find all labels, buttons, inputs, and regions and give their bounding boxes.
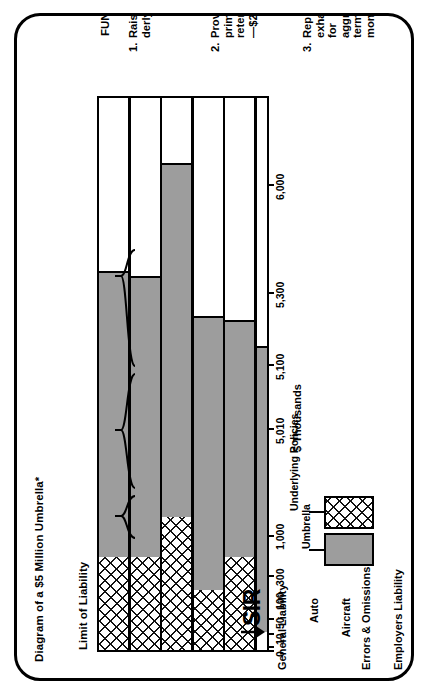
brace-function-2-icon [113,372,137,490]
function-item-1-text: Raise limits of primary (un-derlying) po… [127,16,152,38]
brace-function-3-icon [113,494,137,540]
rounded-border-frame: Diagram of a $5 Million Umbrella* Limit … [14,13,414,681]
function-item-1-number: 1. [127,43,140,52]
functions-panel: FUNCTIONS 1. Raise limits of primary (un… [17,16,411,678]
function-item-3: 3. Replace primary coverage where aggreg… [301,16,377,38]
function-item-1: 1. Raise limits of primary (un-derlying)… [127,16,152,38]
brace-function-1-icon [113,248,137,368]
function-item-3-number: 3. [301,43,314,52]
function-item-2-text: Provide broader coverage than primaries,… [209,16,259,38]
functions-heading-label: FUNCTIONS [99,16,111,36]
function-item-2: 2. Provide broader coverage than primari… [209,16,259,38]
figure-page: Diagram of a $5 Million Umbrella* Limit … [0,0,430,694]
function-item-3-text: Replace primary coverage where aggregate… [301,16,376,38]
function-item-2-number: 2. [209,43,222,52]
